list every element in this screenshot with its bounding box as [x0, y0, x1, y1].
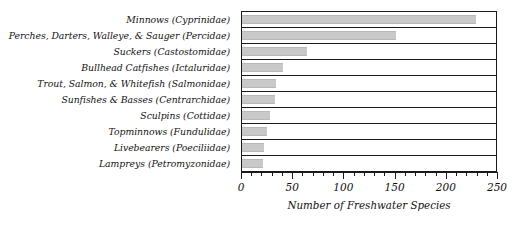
x-axis-minor-tick [323, 172, 324, 176]
x-axis-major-tick [292, 172, 293, 179]
bar-row [242, 124, 496, 140]
bar-rows [242, 12, 496, 171]
x-axis-minor-tick [405, 172, 406, 176]
x-axis-minor-tick [384, 172, 385, 176]
horizontal-bar-chart: Minnows (Cyprinidae)Perches, Darters, Wa… [0, 0, 515, 226]
x-axis-major-tick [395, 172, 396, 179]
x-axis-line [241, 172, 497, 173]
x-axis-minor-tick [333, 172, 334, 176]
x-axis-minor-tick [261, 172, 262, 176]
x-axis-minor-tick [425, 172, 426, 176]
category-label: Topminnows (Fundulidae) [0, 124, 236, 140]
bar-row [242, 108, 496, 124]
x-axis-tick-labels: 050100150200250 [241, 181, 497, 195]
bar [242, 79, 276, 88]
category-axis-labels: Minnows (Cyprinidae)Perches, Darters, Wa… [0, 11, 236, 172]
x-axis-minor-tick [415, 172, 416, 176]
bar [242, 127, 267, 136]
bar [242, 15, 476, 24]
x-axis-minor-tick [364, 172, 365, 176]
x-axis-minor-tick [374, 172, 375, 176]
x-axis-tick-label: 250 [487, 181, 507, 193]
category-label: Minnows (Cyprinidae) [0, 11, 236, 27]
bar [242, 111, 270, 120]
category-label: Livebearers (Poeciliidae) [0, 140, 236, 156]
x-axis-minor-tick [354, 172, 355, 176]
bar-row [242, 92, 496, 108]
x-axis-tick-label: 100 [333, 181, 353, 193]
x-axis-tick-label: 200 [436, 181, 456, 193]
category-label: Lampreys (Petromyzonidae) [0, 156, 236, 172]
x-axis-minor-tick [251, 172, 252, 176]
x-axis-title: Number of Freshwater Species [241, 199, 497, 211]
x-axis-minor-tick [466, 172, 467, 176]
bar-row [242, 140, 496, 156]
category-label: Bullhead Catfishes (Ictaluridae) [0, 59, 236, 75]
bar [242, 95, 275, 104]
x-axis-minor-tick [477, 172, 478, 176]
x-axis-major-tick [343, 172, 344, 179]
category-label: Perches, Darters, Walleye, & Sauger (Per… [0, 27, 236, 43]
x-axis-minor-tick [272, 172, 273, 176]
x-axis-minor-tick [302, 172, 303, 176]
bar [242, 143, 264, 152]
bar [242, 47, 307, 56]
bar-row [242, 44, 496, 60]
bar-row [242, 60, 496, 76]
x-axis-tick-label: 150 [385, 181, 405, 193]
x-axis-minor-tick [282, 172, 283, 176]
x-axis-major-tick [497, 172, 498, 179]
x-axis-major-tick [241, 172, 242, 179]
plot-area [241, 11, 497, 172]
x-axis-minor-tick [313, 172, 314, 176]
category-label: Sunfishes & Basses (Centrarchidae) [0, 91, 236, 107]
bar [242, 159, 263, 168]
category-label: Sculpins (Cottidae) [0, 108, 236, 124]
category-label: Trout, Salmon, & Whitefish (Salmonidae) [0, 75, 236, 91]
x-axis-minor-tick [456, 172, 457, 176]
bar-row [242, 12, 496, 28]
x-axis-minor-tick [436, 172, 437, 176]
x-axis-minor-tick [487, 172, 488, 176]
x-axis-tick-label: 50 [286, 181, 299, 193]
bar-row [242, 28, 496, 44]
category-label: Suckers (Castostomidae) [0, 43, 236, 59]
bar [242, 31, 396, 40]
bar-row [242, 76, 496, 92]
x-axis-tick-label: 0 [238, 181, 245, 193]
bar [242, 63, 283, 72]
x-axis-major-tick [446, 172, 447, 179]
bar-row [242, 156, 496, 171]
